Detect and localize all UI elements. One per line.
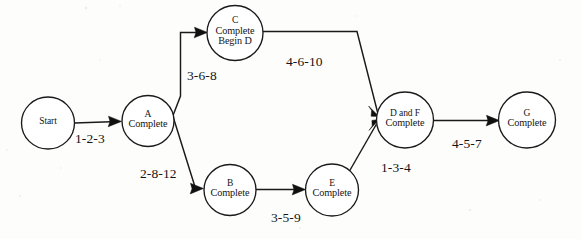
node-start[interactable]: [22, 97, 75, 149]
edge-label-b-e: 3-5-9: [271, 210, 301, 226]
edge-c-to-df: [263, 32, 379, 117]
node-c[interactable]: [207, 6, 263, 61]
node-b[interactable]: [204, 165, 256, 216]
node-g[interactable]: [499, 92, 556, 148]
edge-label-df-g: 4-5-7: [452, 136, 482, 152]
edge-e-to-df: [350, 120, 380, 172]
edge-c-to-df-line: [263, 32, 378, 113]
edge-df-to-g: [433, 115, 500, 126]
arrowhead-icon: [292, 184, 305, 195]
edge-e-to-df-line: [350, 124, 377, 171]
edge-label-c-df: 4-6-10: [286, 54, 323, 70]
arrowhead-icon: [108, 116, 121, 127]
arrowhead-icon: [194, 27, 207, 38]
arrowhead-icon: [486, 115, 499, 126]
diagram-canvas: Start AComplete CCompleteBegin D BComple…: [0, 0, 581, 239]
network-diagram-graphics: [0, 0, 581, 239]
node-a[interactable]: [122, 96, 174, 147]
edge-start-to-a: [75, 116, 122, 127]
edge-label-e-df: 1-3-4: [381, 160, 411, 176]
node-e[interactable]: [306, 164, 359, 216]
edge-label-a-b: 2-8-12: [140, 166, 177, 182]
arrowhead-icon: [190, 183, 203, 194]
edge-label-a-c: 3-6-8: [187, 68, 217, 84]
node-df[interactable]: [377, 92, 434, 148]
edge-b-to-e: [256, 184, 306, 195]
edge-label-start-a: 1-2-3: [75, 131, 105, 147]
